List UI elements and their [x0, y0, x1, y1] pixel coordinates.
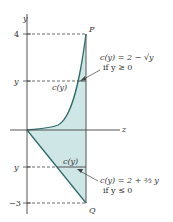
shaded-region: [27, 34, 86, 203]
lower-condition: if y ≤ 0: [103, 186, 132, 195]
upper-equation: c(y) = 2 − √y: [100, 53, 154, 62]
cross-section-diagram: y z 4 y y −3 P Q c(y) c(y) c(y) = 2 − √y…: [0, 0, 173, 222]
tick-label-upper-y: y: [13, 77, 19, 86]
point-q-label: Q: [89, 206, 96, 215]
x-axis-label: z: [121, 125, 127, 134]
point-p-label: P: [88, 25, 95, 34]
strip-label-lower: c(y): [63, 157, 78, 166]
tick-label-lower-y: y: [13, 163, 19, 172]
lower-equation: c(y) = 2 + ⅔ y: [100, 176, 159, 185]
upper-condition: if y ≥ 0: [103, 63, 132, 72]
tick-label-top: 4: [14, 30, 19, 39]
strip-label-upper: c(y): [52, 83, 67, 92]
y-axis-label: y: [22, 14, 28, 23]
tick-label-bottom: −3: [9, 199, 21, 208]
